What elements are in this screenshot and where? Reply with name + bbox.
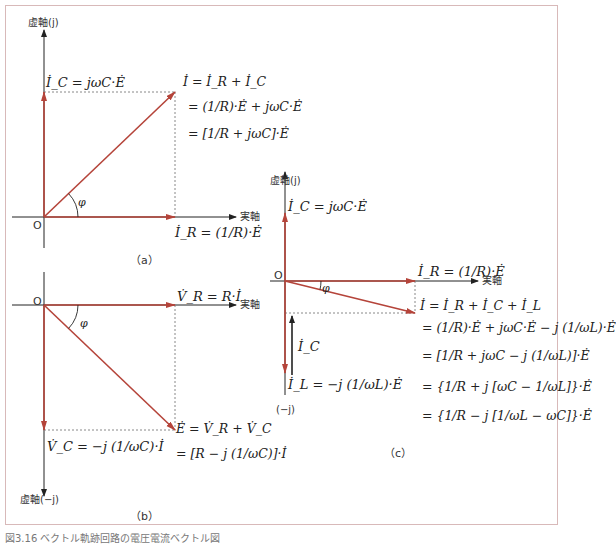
- panel-c-origin-label: O: [274, 270, 283, 281]
- panel-b-vr-label: V̇_R = R·İ: [177, 290, 241, 303]
- panel-a-i-eq-1: İ = İ_R + İ_C: [183, 76, 266, 89]
- panel-b-diagram: [12, 272, 236, 496]
- panel-b-real-axis-label: 実軸: [240, 300, 260, 310]
- panel-c-i-eq-2: = (1/R)·Ė + jωC·Ė − j (1/ωL)·Ė: [422, 322, 616, 335]
- panel-a-i-eq-2: = (1/R)·Ė + jωC·Ė: [188, 101, 302, 114]
- panel-a-origin-label: O: [33, 220, 42, 231]
- panel-a-real-axis-label: 実軸: [240, 212, 260, 222]
- panel-c-imag-axis-label: 虚軸(j): [270, 176, 301, 186]
- panel-a-i-eq-3: = [1/R + jωC]·Ė: [188, 128, 289, 141]
- panel-b-origin-label: O: [33, 296, 42, 307]
- panel-b-caption: （b）: [130, 507, 159, 523]
- panel-c-i-eq-1: İ = İ_R + İ_C + İ_L: [420, 300, 541, 313]
- panel-c-real-axis-label: 実軸: [482, 276, 502, 286]
- panel-a-ic-label: İ_C = jωC·Ė: [46, 76, 125, 89]
- panel-b-imag-axis-label: 虚軸(−j): [20, 495, 59, 505]
- panel-b-angle-label: φ: [80, 318, 88, 329]
- panel-a-angle-label: φ: [78, 197, 86, 208]
- panel-b-vc-label: V̇_C = −j (1/ωC)·İ: [47, 440, 164, 453]
- figure-caption: 図3.16 ベクトル軌跡回路の電圧電流ベクトル図: [5, 530, 220, 545]
- panel-a-ir-label: İ_R = (1/R)·Ė: [175, 226, 262, 239]
- panel-c-caption: （c）: [384, 444, 412, 460]
- panel-c-neg-imag-label: (−j): [276, 405, 295, 415]
- panel-a-caption: （a）: [130, 251, 159, 267]
- panel-c-ic-short-label: İ_C: [298, 340, 320, 353]
- panel-c-il-label: İ_L = −j (1/ωL)·Ė: [288, 378, 402, 391]
- panel-c-i-eq-3: = [1/R + jωC − j (1/ωL)]·Ė: [422, 350, 590, 363]
- panel-b-e-eq-2: = [R − j (1/ωC)]·İ: [176, 448, 286, 461]
- panel-a-imag-axis-label: 虚軸(j): [28, 18, 59, 28]
- panel-b-e-eq-1: Ė = V̇_R + V̇_C: [176, 423, 272, 436]
- panel-c-i-eq-4: = {1/R + j [ωC − 1/ωL]}·Ė: [422, 381, 592, 394]
- panel-c-ic-label: İ_C = jωC·Ė: [288, 200, 367, 213]
- panel-c-i-eq-5: = {1/R − j [1/ωL − ωC]}·Ė: [422, 410, 592, 423]
- panel-c-angle-label: φ: [322, 283, 330, 294]
